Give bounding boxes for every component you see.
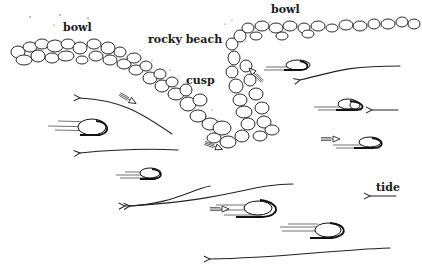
dart <box>118 91 137 106</box>
dart <box>321 136 340 142</box>
pebble <box>280 223 344 238</box>
rock-band-left-bowl <box>11 39 236 148</box>
label-bowl-left: bowl <box>63 21 92 34</box>
pebble <box>116 168 161 179</box>
pebble <box>264 60 310 70</box>
dart <box>210 206 229 212</box>
label-tide: tide <box>376 181 400 194</box>
rock-cusp-and-right-bowl <box>226 17 420 142</box>
pebble <box>314 99 363 110</box>
beach-cusp-diagram: bowl rocky beach cusp bowl tide <box>0 0 422 272</box>
pebble <box>333 137 382 148</box>
label-cusp: cusp <box>186 74 215 87</box>
pebble <box>48 119 107 135</box>
label-rocky-beach: rocky beach <box>148 33 222 46</box>
label-bowl-right: bowl <box>271 3 300 16</box>
